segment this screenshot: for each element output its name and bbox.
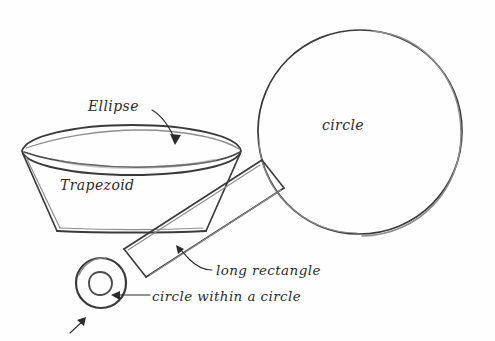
label-circle-within-a-circle: circle within a circle (152, 288, 301, 304)
label-circle: circle (322, 117, 364, 133)
label-ellipse: Ellipse (87, 98, 139, 114)
circle-within-a-circle-shape (76, 258, 126, 308)
label-trapezoid: Trapezoid (60, 177, 134, 193)
trapezoid-body-shape (23, 154, 240, 233)
small-corner-arrow-icon (70, 317, 86, 333)
label-long-rectangle: long rectangle (216, 262, 321, 278)
ellipse-rim-shape (22, 125, 241, 175)
long-rectangle-shape (124, 160, 284, 277)
sketch-canvas: Ellipse Trapezoid circle long rectangle … (0, 0, 495, 341)
sketch-drawing: Ellipse Trapezoid circle long rectangle … (0, 0, 495, 341)
circle-within-a-circle-leader-line (111, 291, 150, 300)
large-circle-shape (258, 30, 462, 236)
long-rectangle-leader-line (176, 245, 212, 270)
